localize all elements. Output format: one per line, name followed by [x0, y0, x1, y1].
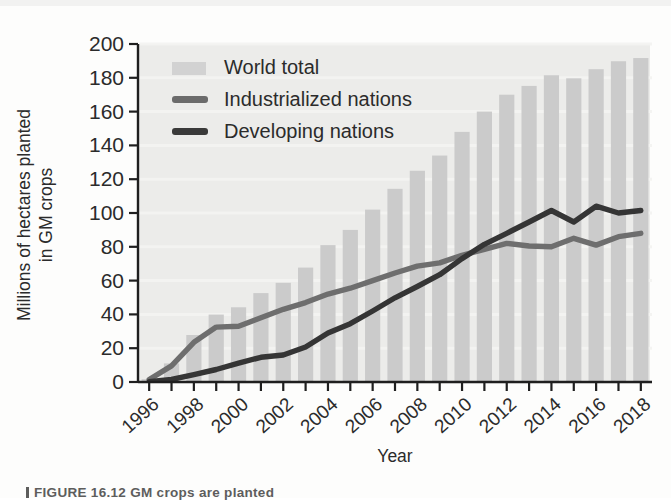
x-tick-label: 2010 [430, 393, 475, 437]
x-tick-label: 2016 [564, 393, 609, 437]
bar-2001 [253, 293, 268, 382]
y-axis-title-line1: Millions of hectares planted [14, 109, 34, 321]
x-tick-label: 2012 [475, 393, 520, 437]
y-tick-label: 140 [89, 133, 124, 156]
bar-2015 [566, 78, 581, 382]
bar-2000 [231, 307, 246, 382]
y-tick-label: 200 [89, 32, 124, 55]
bar-2003 [298, 268, 313, 382]
x-tick-label: 2014 [520, 393, 566, 437]
x-tick-label: 2002 [252, 393, 297, 437]
bar-2013 [521, 86, 536, 382]
x-tick-group: 1996199820002002200420062008201020122014… [117, 382, 654, 437]
x-tick-label: 2004 [296, 393, 342, 437]
bar-2017 [611, 61, 626, 382]
x-tick-label: 1998 [162, 393, 207, 437]
x-tick-label: 1996 [117, 393, 162, 437]
x-tick-label: 2000 [207, 393, 252, 437]
x-axis-title: Year [377, 446, 413, 466]
bar-2014 [544, 75, 559, 382]
bar-2007 [387, 189, 402, 382]
caption-rule [26, 487, 29, 498]
y-tick-label: 120 [89, 167, 124, 190]
bar-2005 [343, 230, 358, 382]
legend-swatch-developing-nations [172, 128, 208, 135]
legend-label-developing-nations: Developing nations [224, 120, 394, 142]
x-tick-label: 2018 [609, 393, 654, 437]
y-tick-group: 020406080100120140160180200 [89, 32, 138, 393]
legend-label-world-total: World total [224, 56, 319, 78]
figure-caption: FIGURE 16.12 GM crops are planted [26, 485, 274, 500]
bar-2006 [365, 210, 380, 382]
y-tick-label: 180 [89, 66, 124, 89]
bar-2018 [633, 58, 648, 382]
x-tick-label: 2006 [341, 393, 386, 437]
y-tick-label: 60 [101, 269, 124, 292]
y-tick-label: 0 [112, 370, 124, 393]
bar-2004 [320, 245, 335, 382]
scan-edge [0, 0, 671, 6]
legend-swatch-industrialized-nations [172, 96, 208, 103]
legend-label-industrialized-nations: Industrialized nations [224, 88, 412, 110]
y-axis-title-line2: in GM crops [36, 168, 56, 263]
y-tick-label: 40 [101, 302, 124, 325]
y-tick-label: 20 [101, 336, 124, 359]
y-axis-title: Millions of hectares planted in GM crops [14, 109, 56, 321]
bar-2008 [410, 171, 425, 382]
bar-2016 [589, 69, 604, 382]
caption-text: FIGURE 16.12 GM crops are planted [34, 485, 274, 500]
y-tick-label: 80 [101, 235, 124, 258]
legend-swatch-world-total [172, 62, 206, 75]
gm-crops-chart: 020406080100120140160180200 199619982000… [0, 0, 671, 470]
bar-2002 [276, 283, 291, 382]
y-tick-label: 160 [89, 100, 124, 123]
y-tick-label: 100 [89, 201, 124, 224]
x-tick-label: 2008 [386, 393, 431, 437]
